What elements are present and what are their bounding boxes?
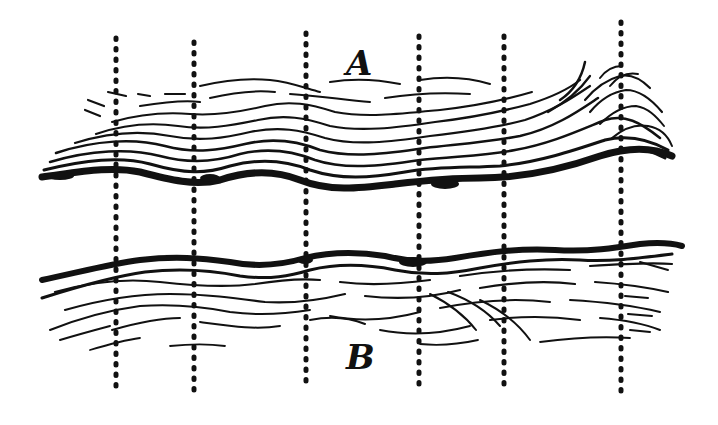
- label-b: B: [346, 340, 375, 374]
- band-b-strata: [42, 243, 682, 350]
- label-a: A: [346, 46, 372, 80]
